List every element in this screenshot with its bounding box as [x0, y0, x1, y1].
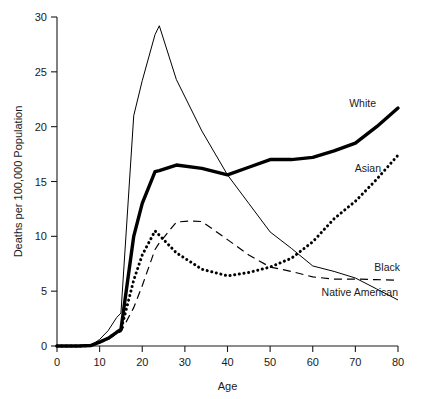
- x-axis-tick-label: 50: [264, 356, 276, 368]
- y-axis-tick-label: 5: [41, 285, 47, 297]
- y-axis-tick-label: 15: [35, 176, 47, 188]
- x-axis-tick-label: 30: [179, 356, 191, 368]
- chart-container: 05101520253001020304050607080AgeDeaths p…: [0, 0, 422, 399]
- series-line-asian: [57, 155, 398, 346]
- line-chart: 05101520253001020304050607080AgeDeaths p…: [0, 0, 422, 399]
- series-label-native-american: Native American: [322, 286, 399, 298]
- x-axis-tick-label: 60: [307, 356, 319, 368]
- x-axis-tick-label: 70: [349, 356, 361, 368]
- x-axis-tick-label: 40: [221, 356, 233, 368]
- series-label-asian: Asian: [355, 162, 381, 174]
- x-axis-title: Age: [218, 380, 238, 392]
- series-line-white: [57, 108, 398, 346]
- y-axis-tick-label: 30: [35, 11, 47, 23]
- series-line-black: [57, 221, 398, 346]
- x-axis-tick-label: 20: [136, 356, 148, 368]
- y-axis-tick-label: 20: [35, 121, 47, 133]
- x-axis-tick-label: 0: [54, 356, 60, 368]
- series-label-black: Black: [374, 261, 400, 273]
- y-axis-tick-label: 25: [35, 66, 47, 78]
- x-axis-tick-label: 10: [94, 356, 106, 368]
- y-axis-tick-label: 10: [35, 230, 47, 242]
- y-axis-title: Deaths per 100,000 Population: [12, 106, 24, 258]
- series-label-white: White: [349, 97, 376, 109]
- y-axis-tick-label: 0: [41, 340, 47, 352]
- x-axis-tick-label: 80: [392, 356, 404, 368]
